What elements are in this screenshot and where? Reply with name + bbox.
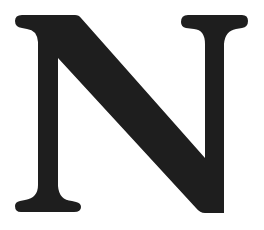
glyph-canvas: N [0, 0, 264, 230]
letter-n-shape [15, 15, 248, 213]
letter-n-glyph [0, 0, 264, 230]
